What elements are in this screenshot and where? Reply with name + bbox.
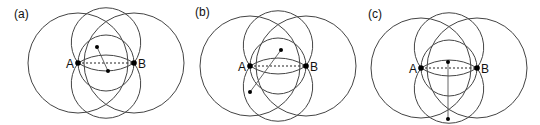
point-b-dot <box>131 60 137 66</box>
point-b-dot <box>474 65 480 71</box>
point-b-label: B <box>138 57 146 71</box>
sample-point-2 <box>248 90 252 94</box>
panel-label: (b) <box>195 5 210 19</box>
point-a-dot <box>418 65 424 71</box>
point-a-label: A <box>66 57 74 71</box>
connecting-segment <box>97 47 108 71</box>
sample-point-1 <box>279 48 283 52</box>
upper-lens-arc <box>250 58 306 66</box>
diagram-canvas: (a)AB (b)AB (c)AB <box>0 0 540 125</box>
point-b-label: B <box>481 62 489 76</box>
point-a-label: A <box>409 62 417 76</box>
lower-lens-arc <box>250 66 306 74</box>
lower-lens-arc <box>421 68 477 76</box>
panel-label: (a) <box>14 7 29 21</box>
sample-point-2 <box>106 69 110 73</box>
point-b-label: B <box>310 60 318 74</box>
point-a-dot <box>247 63 253 69</box>
sample-point-1 <box>446 60 450 64</box>
point-a-dot <box>75 60 81 66</box>
panel-label: (c) <box>368 7 382 21</box>
three-panel-circle-diagram: (a)AB (b)AB (c)AB <box>0 0 540 125</box>
connecting-segment <box>250 50 281 92</box>
sample-point-2 <box>446 117 450 121</box>
point-a-label: A <box>238 60 246 74</box>
panel-b: (b)AB <box>195 5 356 121</box>
upper-lens-arc <box>78 55 134 63</box>
sample-point-1 <box>95 45 99 49</box>
panel-a: (a)AB <box>14 7 184 118</box>
point-b-dot <box>303 63 309 69</box>
panel-c: (c)AB <box>368 7 527 123</box>
